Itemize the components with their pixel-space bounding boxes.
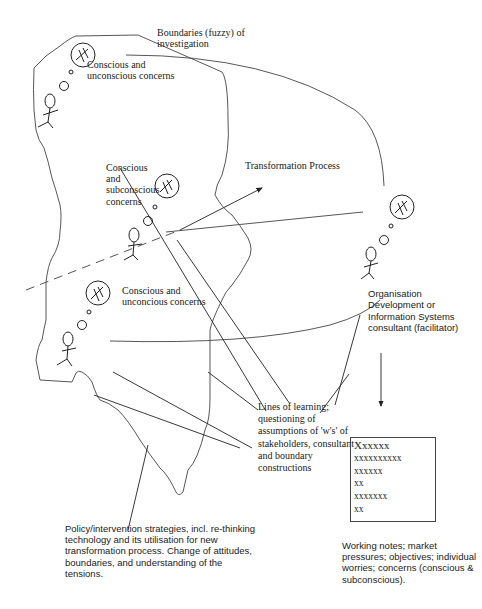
notes-line: xx [354,477,435,490]
consultant-label: Organisation Development or Information … [368,288,458,334]
label-line: assumptions of 'w's' of [258,425,354,437]
stick-figure-icon [57,332,76,366]
boundary-shape [34,35,252,495]
label-line: concerns [106,196,159,207]
transformation-dashed-line [26,230,180,290]
label-line: Organisation [368,288,458,299]
label-line: questioning of [258,413,354,425]
label-line: Conscious [106,162,159,173]
notes-line: xxxxxx [354,465,435,478]
stick-figure-icon [124,228,142,260]
label-line: pressures; objectives; individual [342,551,476,562]
label-line: Working notes; market [342,540,476,551]
transformation-process-label: Transformation Process [245,160,340,171]
label-line: worries; concerns (conscious & [342,562,476,573]
notes-line: Xxxxxx [354,439,435,452]
actor3-concerns-label: Conscious and unconcious concerns [122,285,206,307]
stick-figure-icon [361,247,378,279]
actor2-concerns-label: Conscious and subconscious concerns [106,162,159,207]
label-line: and [106,173,159,184]
notes-line: xx [354,503,435,516]
label-line: consultant (facilitator) [368,322,458,333]
label-line: stakeholders, consultant [258,438,354,450]
label-line: transformation process. Change of attitu… [65,545,255,556]
label-line: tensions. [65,568,255,579]
label-line: boundaries, and understanding of the [65,557,255,568]
label-line: Boundaries (fuzzy) of [157,27,245,38]
label-line: Policy/intervention strategies, incl. re… [65,523,255,534]
lines-of-learning-label: Lines of learning; questioning of assump… [258,401,354,474]
label-line: technology and its utilisation for new [65,534,255,545]
working-notes-box: Xxxxxx xxxxxxxxxx xxxxxx xx xxxxxxx xx [350,437,436,522]
thought-bubble-icon [78,281,111,330]
actor-consultant [361,195,414,279]
policy-label: Policy/intervention strategies, incl. re… [65,523,255,579]
label-line: Conscious and [122,285,206,296]
label-line: Lines of learning; [258,401,354,413]
label-line: unconcious concerns [122,296,206,307]
label-line: subconscious [106,184,159,195]
label-line: constructions [258,462,354,474]
label-line: Conscious and [87,59,174,70]
thought-bubble-icon [380,195,415,245]
label-line: Development or [368,299,458,310]
stick-figure-icon [38,94,58,128]
label-line: and boundary [258,450,354,462]
label-line: Information Systems [368,311,458,322]
actor-3 [57,281,110,366]
notes-line: xxxxxxxxxx [354,452,435,465]
label-line: investigation [157,38,245,49]
actor1-concerns-label: Conscious and unconscious concerns [87,59,174,81]
boundaries-label: Boundaries (fuzzy) of investigation [157,27,245,49]
notes-line: xxxxxxx [354,490,435,503]
label-line: unconscious concerns [87,70,174,81]
label-line: subconscious). [342,574,476,585]
working-notes-caption: Working notes; market pressures; objecti… [342,540,476,585]
